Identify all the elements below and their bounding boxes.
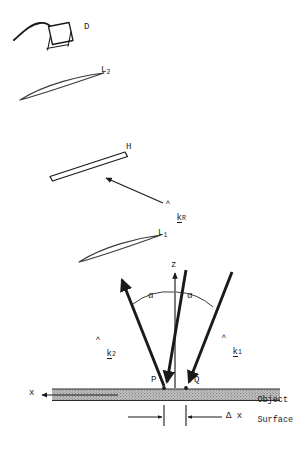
- k-hat-1-label: ˄ k1: [211, 316, 237, 366]
- z-axis-label: z: [171, 261, 176, 270]
- angle-alpha-left-label: α: [148, 292, 153, 301]
- beam-k2-upgoing: [122, 280, 164, 386]
- delta-x-dimension: [128, 405, 222, 426]
- surface-point-q-marker: [184, 386, 188, 390]
- lens-l1-label: L1: [158, 229, 167, 240]
- k-hat-R-label: ˄ kR: [155, 182, 181, 232]
- k-hat-1-sub: 1: [238, 349, 242, 356]
- beam-incoming-to-p: [167, 270, 186, 382]
- optical-diagram-svg: [0, 0, 296, 451]
- k-hat-2-sub: 2: [112, 351, 116, 358]
- lens-l2-outline: [20, 73, 104, 100]
- detector-assembly: [14, 23, 73, 51]
- k-hat-1-hat: ˄: [211, 334, 237, 339]
- point-q-label: Q: [194, 376, 199, 385]
- k-hat-2-label: ˄ k2: [85, 318, 111, 368]
- hologram-plate: [50, 152, 128, 181]
- object-surface-label: Object Surface: [237, 385, 293, 435]
- detector-cable: [14, 23, 51, 40]
- detector-label: D: [84, 23, 89, 32]
- k-hat-R-hat: ˄: [155, 200, 181, 205]
- hologram-body: [50, 152, 128, 181]
- detector-base-bar: [47, 45, 70, 49]
- k-hat-R-sub: R: [182, 215, 186, 222]
- angle-arc-left: [133, 292, 174, 304]
- hologram-label: H: [126, 143, 131, 152]
- object-surface-label-line2: Surface: [257, 415, 293, 425]
- lens-l2-label-sub: 2: [106, 69, 110, 76]
- lens-l2-label: L2: [101, 66, 110, 77]
- object-surface-label-line1: Object: [257, 395, 288, 405]
- x-axis-label: x: [29, 389, 34, 398]
- lens-l1-outline: [79, 235, 161, 262]
- figure-canvas: D L2 H ˄ kR L1 z α α ˄ k2 ˄ k1 x P Q Δ x…: [0, 0, 296, 451]
- lens-l2: [20, 73, 104, 100]
- lens-l1-label-sub: 1: [163, 232, 167, 239]
- surface-point-p-marker: [162, 386, 166, 390]
- point-p-label: P: [151, 376, 156, 385]
- k-hat-2-hat: ˄: [85, 336, 111, 341]
- lens-l1: [79, 235, 161, 262]
- angle-alpha-right-label: α: [187, 292, 192, 301]
